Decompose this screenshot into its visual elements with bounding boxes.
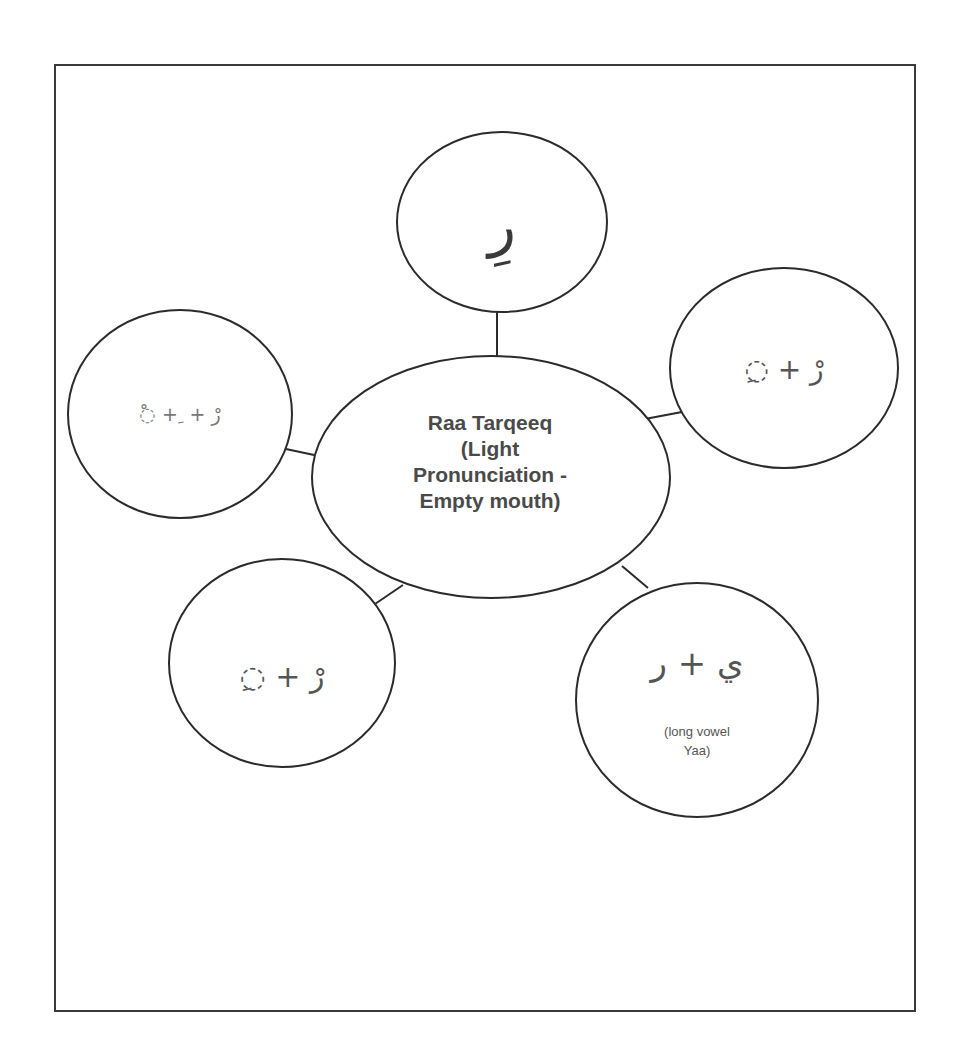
bottom-right-node-text: ي + ر — [617, 640, 777, 686]
note-line: (long vowel — [637, 722, 757, 741]
center-label-line: Raa Tarqeeq — [340, 410, 640, 436]
center-label: Raa Tarqeeq (Light Pronunciation - Empty… — [340, 410, 640, 514]
center-label-line: Pronunciation - — [340, 462, 640, 488]
connector-bottom-right — [622, 566, 648, 588]
bottom-left-node-text: ◌ِ + رْ — [202, 656, 362, 698]
connector-bottom-left — [375, 585, 403, 604]
bottom-right-node-note: (long vowel Yaa) — [637, 722, 757, 760]
right-node-text: ◌ِ + رْ — [704, 350, 864, 390]
note-line: Yaa) — [637, 741, 757, 760]
left-node-text: ◌ْ + ِ + رْ — [100, 400, 260, 428]
center-label-line: (Light — [340, 436, 640, 462]
bottom-right-node — [576, 583, 818, 817]
center-label-line: Empty mouth) — [340, 488, 640, 514]
connector-left — [286, 449, 314, 455]
top-node-text: رِ — [432, 190, 572, 260]
spider-diagram — [0, 0, 970, 1062]
